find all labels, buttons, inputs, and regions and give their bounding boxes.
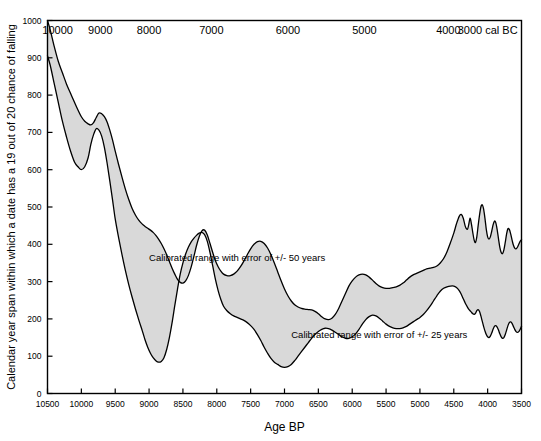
chart-svg: 1050010000950090008500800075007000650060…	[0, 0, 541, 441]
x-tick-label: 5500	[377, 399, 396, 409]
y-tick-label: 1000	[23, 16, 42, 26]
y-tick-label: 500	[27, 202, 41, 212]
x-tick-label: 10500	[36, 399, 60, 409]
x-tick-label: 7500	[241, 399, 260, 409]
top-axis-label: 5000	[352, 24, 376, 36]
x-tick-label: 4000	[478, 399, 497, 409]
top-axis-label: 9000	[88, 24, 112, 36]
y-tick-label: 800	[27, 90, 41, 100]
x-tick-label: 8000	[207, 399, 226, 409]
x-tick-label: 3500	[512, 399, 531, 409]
top-axis-label: 6000	[276, 24, 300, 36]
top-axis-label: 7000	[199, 24, 223, 36]
y-tick-label: 400	[27, 239, 41, 249]
y-tick-label: 200	[27, 314, 41, 324]
chart-figure: 1050010000950090008500800075007000650060…	[0, 0, 541, 441]
y-tick-label: 900	[27, 53, 41, 63]
x-tick-label: 6500	[309, 399, 328, 409]
top-axis-label: 8000	[137, 24, 161, 36]
x-tick-label: 5000	[410, 399, 429, 409]
y-tick-label: 0	[37, 389, 42, 399]
y-tick-label: 100	[27, 351, 41, 361]
x-tick-label: 8500	[173, 399, 192, 409]
x-tick-label: 4500	[444, 399, 463, 409]
x-axis-title: Age BP	[264, 420, 305, 434]
y-tick-label: 600	[27, 165, 41, 175]
x-tick-label: 9500	[106, 399, 125, 409]
y-tick-label: 700	[27, 127, 41, 137]
uncertainty-band-group	[48, 21, 522, 368]
y-tick-label: 300	[27, 277, 41, 287]
y-axis-title: Calendar year span within which a date h…	[5, 24, 17, 390]
x-tick-label: 10000	[70, 399, 94, 409]
top-axis-label: 3000 cal BC	[458, 24, 518, 36]
annotation-label: Calibrated range with error of +/- 50 ye…	[149, 252, 325, 263]
x-axis-ticks: 1050010000950090008500800075007000650060…	[36, 389, 532, 409]
x-tick-label: 7000	[275, 399, 294, 409]
top-axis-ticks: 100009000800070006000500040003000 cal BC	[42, 24, 517, 36]
x-tick-label: 9000	[140, 399, 159, 409]
top-axis-label: 10000	[42, 24, 73, 36]
annotation-label: Calibrated range with error of +/- 25 ye…	[291, 329, 467, 340]
x-tick-label: 6000	[343, 399, 362, 409]
